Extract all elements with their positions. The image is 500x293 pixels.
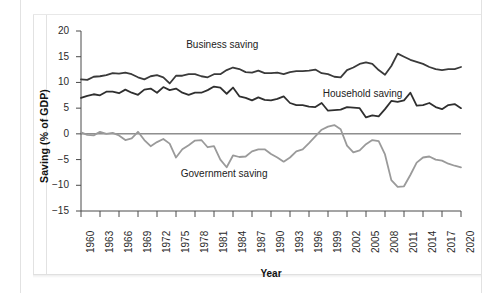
series-line-household-saving [81, 87, 461, 118]
y-axis-tick-label: 0 [43, 128, 69, 139]
series-annotation-household-saving: Household saving [323, 88, 403, 99]
x-axis-tick-label: 2005 [370, 231, 381, 253]
page-background: Saving (% of GDP) Year 20151050−5−10−15 … [0, 0, 500, 293]
series-annotation-government-saving: Government saving [181, 168, 268, 179]
y-axis-tick-label: −15 [43, 205, 69, 216]
x-axis-tick-label: 1984 [237, 231, 248, 253]
x-axis-tick-label: 2002 [351, 231, 362, 253]
x-axis-tick-label: 1996 [313, 231, 324, 253]
y-axis-tick-label: 20 [43, 25, 69, 36]
y-axis-tick-label: −10 [43, 179, 69, 190]
x-axis-tick-label: 2008 [389, 231, 400, 253]
axis-spines [81, 31, 461, 211]
x-axis-label: Year [81, 268, 461, 279]
y-axis-tick-label: 5 [43, 102, 69, 113]
x-axis-tick-label: 2020 [465, 231, 476, 253]
x-axis-tick-label: 1993 [294, 231, 305, 253]
x-axis-tick-label: 1999 [332, 231, 343, 253]
x-axis-tick-label: 1978 [199, 231, 210, 253]
y-axis-tick-label: −5 [43, 154, 69, 165]
x-axis-tick-label: 1987 [256, 231, 267, 253]
y-axis-tick-label: 15 [43, 51, 69, 62]
x-axis-tick-label: 2011 [408, 231, 419, 253]
series-annotation-business-saving: Business saving [186, 39, 258, 50]
series-line-business-saving [81, 54, 461, 84]
x-axis-tick-label: 2014 [427, 231, 438, 253]
x-axis-tick-label: 1963 [104, 231, 115, 253]
x-axis-tick-label: 2017 [446, 231, 457, 253]
x-axis-tick-label: 1981 [218, 231, 229, 253]
x-axis-tick-label: 1966 [123, 231, 134, 253]
x-axis-tick-label: 1972 [161, 231, 172, 253]
series-line-government-saving [81, 125, 461, 187]
x-axis-tick-label: 1960 [85, 231, 96, 253]
saving-share-of-gdp-chart: Saving (% of GDP) Year 20151050−5−10−15 … [0, 0, 500, 293]
y-axis-tick-label: 10 [43, 76, 69, 87]
x-axis-tick-label: 1990 [275, 231, 286, 253]
x-axis-tick-label: 1975 [180, 231, 191, 253]
x-axis-tick-label: 1969 [142, 231, 153, 253]
